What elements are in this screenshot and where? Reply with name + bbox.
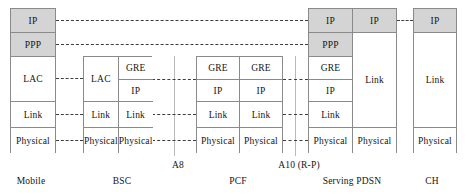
peer-link-ip — [397, 20, 413, 21]
layer-cell-ip[interactable]: IP — [240, 80, 282, 102]
layer-cell-link[interactable]: Link — [414, 33, 456, 128]
node-label-mobile: Mobile — [17, 176, 46, 186]
layer-cell-gre[interactable]: GRE — [119, 57, 153, 80]
layer-cell-physical[interactable]: Physical — [197, 128, 239, 154]
peer-link-link — [283, 114, 308, 115]
layer-cell-link[interactable]: Link — [119, 102, 153, 128]
node-label-serving-pdsn: Serving PDSN — [323, 176, 382, 186]
interface-label-a10: A10 (R-P) — [278, 160, 320, 170]
layer-cell-physical[interactable]: Physical — [414, 128, 456, 154]
interface-rule-a8 — [174, 56, 175, 156]
peer-link-link — [56, 114, 83, 115]
stack-column-pdsn-right: IPLinkPhysical — [352, 9, 396, 152]
layer-cell-link[interactable]: Link — [197, 102, 239, 128]
layer-cell-link[interactable]: Link — [240, 102, 282, 128]
layer-cell-gre[interactable]: GRE — [197, 57, 239, 80]
layer-cell-link[interactable]: Link — [11, 102, 55, 128]
peer-link-ip — [56, 20, 308, 21]
layer-cell-ppp[interactable]: PPP — [309, 33, 352, 57]
peer-link-physical — [56, 140, 83, 141]
layer-cell-ppp[interactable]: PPP — [11, 33, 55, 57]
node-bsc[interactable]: LACLinkPhysicalGREIPLinkPhysical — [83, 56, 152, 153]
layer-cell-link[interactable]: Link — [84, 102, 118, 128]
node-pcf[interactable]: GREIPLinkPhysicalGREIPLinkPhysical — [196, 56, 283, 153]
peer-link-physical — [283, 140, 308, 141]
layer-cell-link[interactable]: Link — [309, 102, 352, 128]
stack-column-bsc-left: LACLinkPhysical — [84, 57, 118, 152]
node-ch[interactable]: IPLinkPhysical — [413, 8, 457, 153]
layer-cell-lac[interactable]: LAC — [11, 57, 55, 102]
layer-cell-ip[interactable]: IP — [353, 9, 396, 33]
peer-link-lac — [56, 78, 83, 79]
interface-label-a8: A8 — [172, 160, 184, 170]
layer-cell-physical[interactable]: Physical — [353, 128, 396, 154]
node-label-bsc: BSC — [113, 176, 132, 186]
node-serving-pdsn[interactable]: IPPPPGREIPLinkPhysicalIPLinkPhysical — [308, 8, 397, 153]
layer-cell-ip[interactable]: IP — [309, 80, 352, 102]
peer-link-ppp — [56, 44, 308, 45]
stack-column-pdsn-left: IPPPPGREIPLinkPhysical — [309, 9, 352, 152]
stack-column-ch-stack: IPLinkPhysical — [414, 9, 456, 152]
layer-cell-ip[interactable]: IP — [197, 80, 239, 102]
peer-link-gre — [152, 79, 196, 80]
stack-column-pcf-left: GREIPLinkPhysical — [197, 57, 239, 152]
peer-link-link — [152, 114, 196, 115]
layer-cell-ip[interactable]: IP — [119, 80, 153, 102]
layer-cell-ip[interactable]: IP — [414, 9, 456, 33]
layer-cell-physical[interactable]: Physical — [240, 128, 282, 154]
layer-cell-link[interactable]: Link — [353, 33, 396, 128]
node-label-ch: CH — [425, 176, 439, 186]
layer-cell-physical[interactable]: Physical — [119, 128, 153, 154]
peer-link-gre — [283, 79, 308, 80]
stack-column-mobile-stack: IPPPPLACLinkPhysical — [11, 9, 55, 152]
stack-column-bsc-right: GREIPLinkPhysical — [118, 57, 153, 152]
layer-cell-physical[interactable]: Physical — [11, 128, 55, 154]
node-mobile[interactable]: IPPPPLACLinkPhysical — [10, 8, 56, 153]
layer-cell-physical[interactable]: Physical — [84, 128, 118, 154]
stack-column-pcf-right: GREIPLinkPhysical — [239, 57, 282, 152]
node-label-pcf: PCF — [229, 176, 247, 186]
layer-cell-physical[interactable]: Physical — [309, 128, 352, 154]
interface-rule-a10 — [295, 56, 296, 156]
layer-cell-gre[interactable]: GRE — [240, 57, 282, 80]
layer-cell-ip[interactable]: IP — [309, 9, 352, 33]
layer-cell-ip[interactable]: IP — [11, 9, 55, 33]
peer-link-physical — [152, 140, 196, 141]
layer-cell-lac[interactable]: LAC — [84, 57, 118, 102]
protocol-stack-diagram: A8A10 (R-P)IPPPPLACLinkPhysicalMobileLAC… — [0, 0, 467, 194]
layer-cell-gre[interactable]: GRE — [309, 57, 352, 80]
